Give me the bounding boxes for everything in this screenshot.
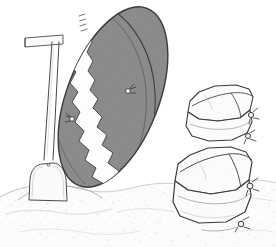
scene-drawing bbox=[0, 0, 276, 247]
shovel-blade bbox=[29, 163, 67, 201]
sandbag-stack-upper bbox=[186, 85, 259, 144]
shovel-rivet bbox=[47, 164, 50, 167]
illustration-canvas: Line drawing of a long gray sandbag lean… bbox=[0, 0, 276, 247]
